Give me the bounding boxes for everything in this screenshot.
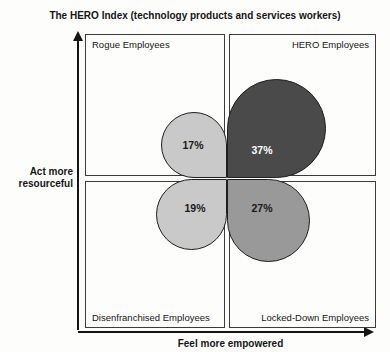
quadrant-label-rogue: Rogue Employees (92, 39, 170, 50)
petal-locked-down (227, 179, 310, 262)
y-axis-label: Act more resourceful (0, 166, 73, 190)
petal-value-rogue: 17% (182, 139, 203, 151)
arrow-up-icon (73, 31, 83, 41)
quadrant-label-locked-down: Locked-Down Employees (261, 312, 369, 323)
petal-value-disenfranchised: 19% (184, 202, 205, 214)
quadrant-label-disenfranchised: Disenfranchised Employees (92, 312, 210, 323)
petal-value-locked-down: 27% (251, 202, 272, 214)
x-axis-line (78, 331, 366, 333)
arrow-right-icon (364, 327, 374, 337)
x-axis-label: Feel more empowered (85, 338, 376, 349)
hero-index-chart: The HERO Index (technology products and … (0, 0, 390, 352)
y-axis-line (77, 40, 79, 330)
petal-hero (227, 79, 326, 178)
petal-value-hero: 37% (251, 144, 272, 156)
quadrant-label-hero: HERO Employees (292, 39, 369, 50)
chart-title: The HERO Index (technology products and … (0, 10, 390, 21)
petal-disenfranchised (156, 179, 227, 250)
